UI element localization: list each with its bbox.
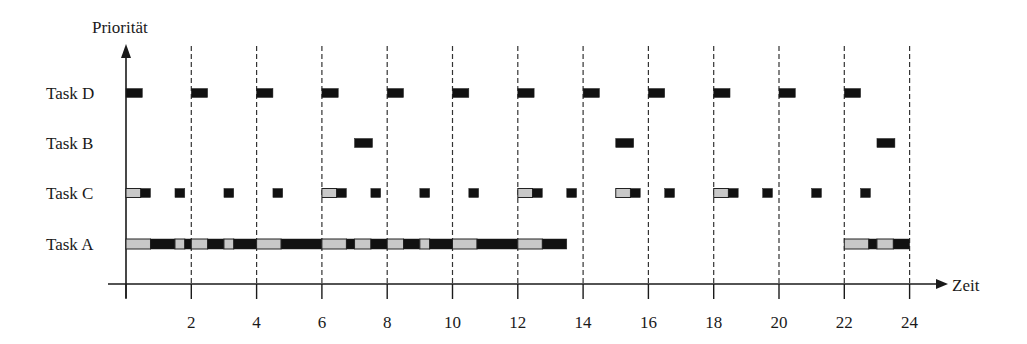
segment-running	[763, 189, 773, 198]
segment-running	[337, 189, 347, 198]
segment-running	[355, 139, 373, 148]
segment-running	[583, 89, 599, 98]
segment-ready	[453, 239, 477, 249]
segment-running	[281, 239, 322, 249]
segment-running	[430, 239, 453, 249]
segment-running	[542, 239, 566, 249]
diagram-canvas	[0, 0, 1027, 344]
segment-ready	[355, 239, 371, 249]
segment-running	[387, 89, 403, 98]
segment-ready	[387, 239, 403, 249]
segment-running	[224, 189, 234, 198]
segment-running	[208, 239, 224, 249]
y-axis-arrow-icon	[121, 44, 131, 58]
segment-running	[648, 89, 664, 98]
segment-running	[453, 89, 469, 98]
segment-running	[714, 89, 730, 98]
segment-running	[420, 189, 430, 198]
segment-ready	[877, 239, 893, 249]
segment-running	[812, 189, 822, 198]
x-tick-label: 2	[187, 313, 196, 333]
segment-running	[844, 89, 860, 98]
segment-running	[126, 89, 142, 98]
segment-ready	[518, 239, 542, 249]
segment-running	[728, 189, 738, 198]
task-label-d: Task D	[46, 84, 94, 104]
segment-ready	[844, 239, 868, 249]
x-tick-label: 4	[252, 313, 261, 333]
segment-running	[532, 189, 542, 198]
segment-running	[191, 89, 207, 98]
segment-running	[175, 189, 185, 198]
segment-ready	[714, 189, 729, 198]
segment-running	[371, 239, 387, 249]
priority-scheduling-diagram: Priorität Zeit Task D Task B Task C Task…	[0, 0, 1027, 344]
x-tick-label: 10	[444, 313, 461, 333]
x-tick-label: 18	[705, 313, 722, 333]
task-label-a: Task A	[46, 235, 93, 255]
x-tick-label: 24	[901, 313, 918, 333]
task-label-b: Task B	[46, 134, 93, 154]
segment-running	[567, 189, 577, 198]
segment-running	[322, 89, 338, 98]
segment-running	[150, 239, 174, 249]
segment-running	[346, 239, 354, 249]
segment-ready	[322, 239, 346, 249]
x-tick-label: 6	[318, 313, 327, 333]
segment-ready	[616, 189, 631, 198]
x-axis-label: Zeit	[952, 276, 979, 296]
segment-ready	[191, 239, 207, 249]
segment-running	[469, 189, 479, 198]
segment-running	[273, 189, 283, 198]
segment-running	[861, 189, 871, 198]
x-tick-label: 20	[771, 313, 788, 333]
segment-running	[665, 189, 675, 198]
segment-running	[877, 139, 895, 148]
segment-running	[234, 239, 257, 249]
x-tick-label: 16	[640, 313, 657, 333]
task-label-c: Task C	[46, 184, 93, 204]
segment-running	[518, 89, 534, 98]
segment-ready	[518, 189, 533, 198]
segment-ready	[420, 239, 430, 249]
segment-running	[616, 139, 634, 148]
segment-ready	[257, 239, 281, 249]
segment-running	[185, 239, 192, 249]
segment-running	[477, 239, 518, 249]
segment-running	[893, 239, 909, 249]
x-axis-arrow-icon	[936, 279, 948, 289]
segment-ready	[126, 189, 141, 198]
segment-running	[141, 189, 151, 198]
segment-ready	[175, 239, 185, 249]
segment-running	[779, 89, 795, 98]
segment-ready	[126, 239, 150, 249]
segment-running	[257, 89, 273, 98]
x-tick-label: 14	[575, 313, 592, 333]
segment-running	[404, 239, 420, 249]
segment-running	[869, 239, 877, 249]
segment-running	[371, 189, 381, 198]
x-tick-label: 22	[836, 313, 853, 333]
segment-ready	[224, 239, 234, 249]
segment-running	[630, 189, 640, 198]
y-axis-label: Priorität	[92, 18, 148, 38]
x-tick-label: 12	[509, 313, 526, 333]
x-tick-label: 8	[383, 313, 392, 333]
segment-ready	[322, 189, 337, 198]
